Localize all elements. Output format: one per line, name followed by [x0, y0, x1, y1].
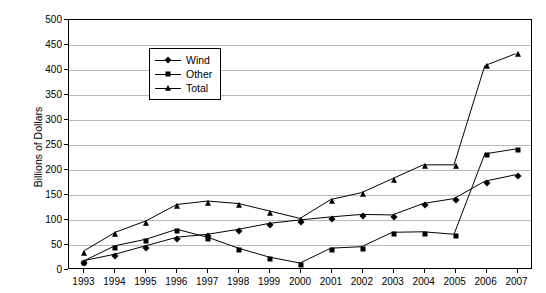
x-tick-label: 1993	[72, 276, 94, 287]
y-tick-label: 450	[4, 39, 62, 50]
y-tick-label: 400	[4, 64, 62, 75]
x-tick-label: 2006	[474, 276, 496, 287]
legend-label-other: Other	[186, 68, 212, 80]
square-marker-icon	[144, 239, 149, 244]
triangle-marker-icon	[422, 163, 428, 169]
x-tick-label: 2000	[289, 276, 311, 287]
triangle-marker-icon	[174, 203, 180, 209]
x-tick-label: 1998	[227, 276, 249, 287]
square-marker-icon	[268, 257, 273, 262]
square-marker-icon	[237, 248, 242, 253]
square-marker-icon	[166, 72, 171, 77]
x-tick-mark	[393, 269, 394, 273]
square-marker-icon	[206, 237, 211, 242]
y-tick-label: 200	[4, 164, 62, 175]
x-tick-mark	[145, 269, 146, 273]
square-marker-icon	[299, 263, 304, 268]
x-tick-mark	[331, 269, 332, 273]
y-tick-label: 350	[4, 89, 62, 100]
x-tick-label: 2003	[382, 276, 404, 287]
y-tick-label: 300	[4, 114, 62, 125]
triangle-marker-icon	[298, 217, 304, 223]
y-tick-label: 500	[4, 14, 62, 25]
plot-area: Wind Other Total	[68, 19, 532, 269]
x-tick-mark	[424, 269, 425, 273]
x-tick-label: 1999	[258, 276, 280, 287]
x-tick-mark	[486, 269, 487, 273]
square-marker-icon	[175, 229, 180, 234]
x-tick-label: 2004	[413, 276, 435, 287]
square-marker-icon	[422, 231, 427, 236]
y-tick-label: 0	[4, 264, 62, 275]
triangle-marker-icon	[515, 51, 521, 57]
square-marker-icon	[329, 248, 334, 253]
triangle-marker-icon	[205, 199, 211, 205]
triangle-marker-icon	[453, 163, 459, 169]
x-tick-mark	[238, 269, 239, 273]
x-tick-mark	[114, 269, 115, 273]
x-tick-label: 2001	[320, 276, 342, 287]
series-line-other	[84, 149, 515, 263]
x-tick-mark	[83, 269, 84, 273]
x-tick-mark	[176, 269, 177, 273]
y-tick-label: 250	[4, 139, 62, 150]
x-tick-mark	[207, 269, 208, 273]
other-line-swatch	[155, 69, 181, 79]
total-line-swatch	[155, 83, 181, 93]
square-marker-icon	[391, 232, 396, 237]
triangle-marker-icon	[484, 63, 490, 69]
y-tick-label: 100	[4, 214, 62, 225]
triangle-marker-icon	[267, 209, 273, 215]
square-marker-icon	[453, 234, 458, 239]
line-chart: Billions of Dollars 05010015020025030035…	[0, 0, 546, 293]
x-tick-mark	[269, 269, 270, 273]
x-tick-label: 2007	[505, 276, 527, 287]
triangle-marker-icon	[143, 219, 149, 225]
x-axis: 1993199419951996199719981999200020012002…	[68, 269, 532, 293]
square-marker-icon	[360, 246, 365, 251]
x-tick-label: 2005	[444, 276, 466, 287]
x-tick-label: 1995	[134, 276, 156, 287]
y-tick-label: 150	[4, 189, 62, 200]
x-tick-mark	[517, 269, 518, 273]
x-tick-label: 1997	[196, 276, 218, 287]
x-tick-mark	[362, 269, 363, 273]
triangle-marker-icon	[329, 198, 335, 204]
legend-item-other: Other	[155, 67, 212, 81]
legend: Wind Other Total	[149, 48, 221, 100]
triangle-marker-icon	[360, 191, 366, 197]
y-tick-label: 50	[4, 239, 62, 250]
x-tick-mark	[300, 269, 301, 273]
x-tick-label: 2002	[351, 276, 373, 287]
legend-label-wind: Wind	[186, 54, 210, 66]
triangle-marker-icon	[81, 249, 87, 255]
triangle-marker-icon	[236, 202, 242, 208]
x-tick-mark	[455, 269, 456, 273]
legend-item-total: Total	[155, 81, 212, 95]
triangle-marker-icon	[112, 231, 118, 237]
square-marker-icon	[515, 148, 520, 153]
x-tick-label: 1994	[103, 276, 125, 287]
series-lines	[69, 20, 531, 268]
triangle-marker-icon	[391, 177, 397, 183]
wind-line-swatch	[155, 55, 181, 65]
legend-item-wind: Wind	[155, 53, 212, 67]
diamond-marker-icon	[164, 56, 171, 63]
square-marker-icon	[82, 260, 87, 265]
square-marker-icon	[113, 245, 118, 250]
triangle-marker-icon	[165, 85, 171, 91]
x-tick-label: 1996	[165, 276, 187, 287]
square-marker-icon	[484, 153, 489, 158]
legend-label-total: Total	[186, 82, 208, 94]
